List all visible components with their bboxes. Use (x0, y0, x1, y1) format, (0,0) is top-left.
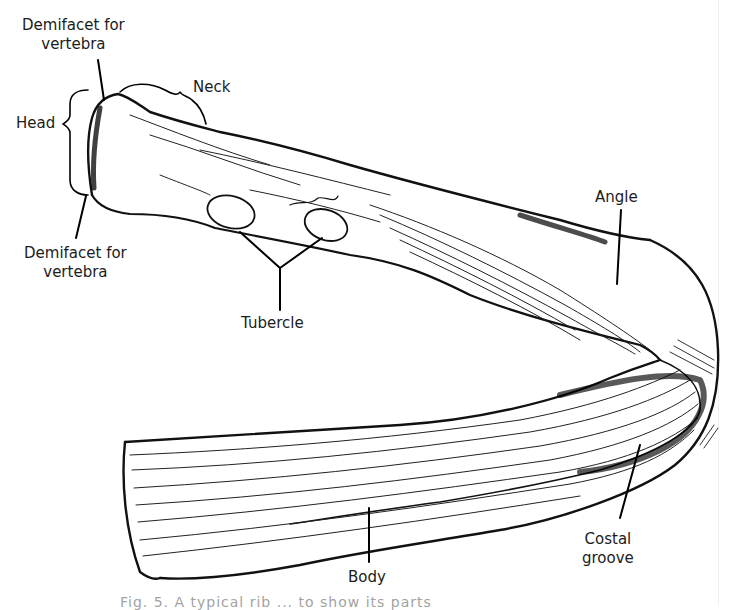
tubercle-nonarticular-facet (300, 203, 352, 246)
label-angle: Angle (595, 188, 638, 207)
label-tubercle: Tubercle (241, 314, 304, 333)
label-demifacet-bottom-line2: vertebra (24, 263, 127, 282)
leader-costal-groove (620, 445, 640, 518)
label-demifacet-top: Demifacet for vertebra (22, 16, 125, 54)
rib-body-upper-border (290, 360, 700, 524)
rib-lower-upper-border (92, 195, 660, 360)
rib-head-outline (88, 94, 650, 240)
label-demifacet-top-line1: Demifacet for (22, 16, 125, 35)
label-costal-groove-line2: groove (582, 549, 634, 568)
label-costal-groove-line1: Costal (582, 530, 634, 549)
head-facet (93, 108, 100, 188)
rib-sternal-end (124, 442, 160, 579)
label-head: Head (16, 114, 55, 133)
label-costal-groove: Costal groove (582, 530, 634, 568)
brace-head (63, 90, 88, 195)
label-body: Body (348, 568, 386, 587)
leader-demifacet-top (98, 60, 104, 100)
rib-body-top-edge (125, 360, 660, 442)
label-neck: Neck (193, 78, 230, 97)
rib-outer-curve (160, 240, 718, 578)
leader-demifacet-bottom (76, 196, 86, 238)
label-demifacet-top-line2: vertebra (22, 35, 125, 54)
figure-caption: Fig. 5. A typical rib ... to show its pa… (120, 594, 432, 610)
leader-tubercle (240, 232, 322, 310)
leader-angle (617, 210, 621, 284)
label-demifacet-bottom: Demifacet for vertebra (24, 244, 127, 282)
label-demifacet-bottom-line1: Demifacet for (24, 244, 127, 263)
